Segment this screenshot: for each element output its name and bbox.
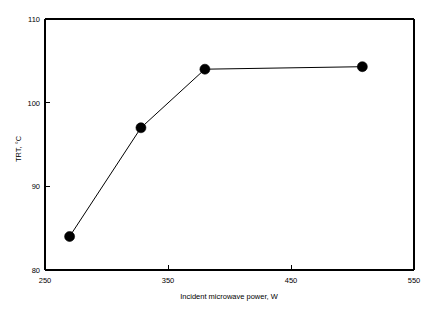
y-tick-label-110: 110	[28, 15, 40, 24]
data-point	[200, 64, 210, 74]
data-point	[65, 232, 75, 242]
data-point	[136, 123, 146, 133]
data-point	[357, 62, 367, 72]
y-tick-label-100: 100	[27, 99, 40, 108]
x-axis-title: Incident microwave power, W	[180, 292, 278, 301]
x-tick-label-450: 450	[285, 276, 298, 285]
x-tick-label-550: 550	[408, 276, 421, 285]
x-tick-label-250: 250	[39, 276, 52, 285]
chart-figure: 110 100 90 80 250 350 450 550 Incident m…	[0, 0, 434, 312]
chart-background	[0, 0, 434, 312]
y-axis-title: TRT, °C	[14, 135, 23, 162]
line-chart: 110 100 90 80 250 350 450 550 Incident m…	[0, 0, 434, 312]
y-tick-label-80: 80	[32, 266, 40, 275]
x-tick-label-350: 350	[162, 276, 175, 285]
y-tick-label-90: 90	[32, 182, 40, 191]
